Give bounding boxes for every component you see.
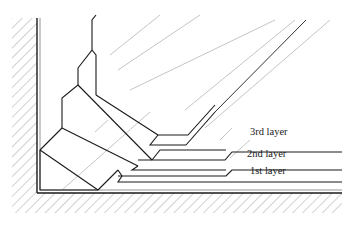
corner-layer-diagram: 3rd layer 2nd layer 1st layer [0, 0, 350, 225]
left-wall-hatch [12, 18, 37, 193]
diagonal-guide-lines [62, 15, 330, 190]
dark-diagonal-line [215, 20, 306, 112]
label-1st-layer: 1st layer [250, 165, 286, 176]
bottom-floor-hatch [12, 193, 342, 213]
base-surface-lines [37, 18, 342, 193]
layer-1-bead [40, 128, 342, 190]
label-3rd-layer: 3rd layer [250, 126, 288, 137]
label-2nd-layer: 2nd layer [247, 148, 287, 159]
layer-3-bead [78, 15, 226, 160]
